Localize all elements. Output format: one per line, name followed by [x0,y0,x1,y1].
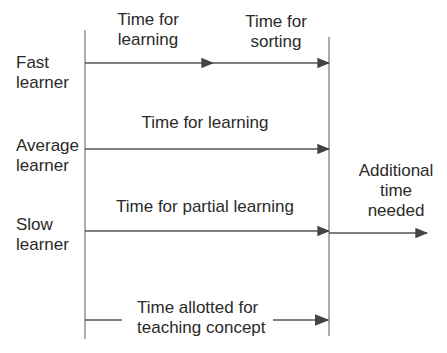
additional-line2: time [352,181,440,201]
average-learner-label: Average learner [16,136,79,176]
fast-learning-label: Time for learning [108,10,188,50]
fast-sorting-line1: Time for [236,12,316,32]
allotted-line2: teaching concept [137,318,266,338]
allotted-line1: Time allotted for [137,298,266,318]
additional-line3: needed [352,201,440,221]
fast-learner-line1: Fast [16,53,69,73]
fast-learner-line2: learner [16,73,69,93]
fast-sorting-label: Time for sorting [236,12,316,52]
allotted-label: Time allotted for teaching concept [137,298,266,338]
additional-time-label: Additional time needed [352,161,440,221]
fast-learning-line1: Time for [108,10,188,30]
slow-partial-label: Time for partial learning [105,197,305,217]
slow-learner-line1: Slow [16,215,69,235]
average-learner-line1: Average [16,136,79,156]
fast-sorting-line2: sorting [236,32,316,52]
slow-learner-line2: learner [16,235,69,255]
fast-learner-label: Fast learner [16,53,69,93]
average-learning-label: Time for learning [120,113,290,133]
slow-learner-label: Slow learner [16,215,69,255]
additional-line1: Additional [352,161,440,181]
average-learner-line2: learner [16,156,79,176]
fast-learning-line2: learning [108,30,188,50]
